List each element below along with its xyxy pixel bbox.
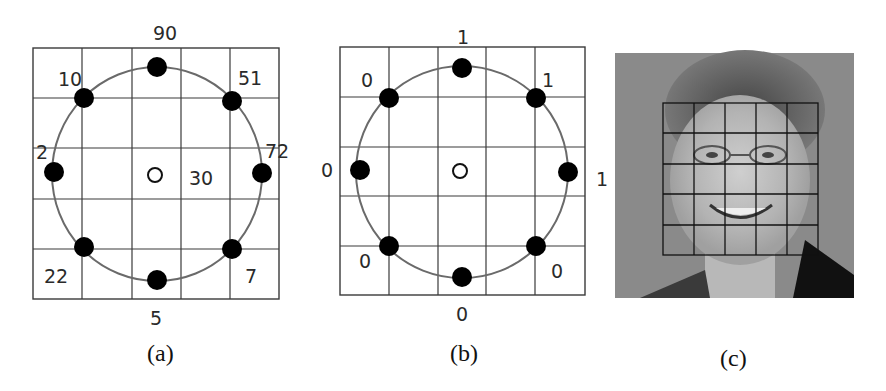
panel-b-center-pixel bbox=[453, 164, 467, 178]
panel-a-neighbor-bottom-left bbox=[74, 237, 94, 257]
bit-left: 0 bbox=[321, 159, 333, 181]
panel-b-neighbor-bottom bbox=[452, 267, 472, 287]
panel-a: 90 51 72 7 5 22 2 10 30 (a) bbox=[33, 22, 289, 366]
caption-b: (b) bbox=[450, 340, 478, 366]
panel-a-center-pixel bbox=[148, 168, 162, 182]
panel-a-neighbor-right bbox=[252, 163, 272, 183]
panel-a-neighbor-top-right bbox=[222, 91, 242, 111]
value-left: 2 bbox=[36, 141, 48, 163]
value-center: 30 bbox=[189, 167, 213, 189]
value-bottom-right: 7 bbox=[245, 265, 257, 287]
panel-b-neighbor-left bbox=[350, 160, 370, 180]
bit-bottom-right: 0 bbox=[551, 260, 563, 282]
panel-a-neighbor-left bbox=[44, 162, 64, 182]
panel-b-neighbor-top-left bbox=[379, 88, 399, 108]
value-top-right: 51 bbox=[238, 67, 262, 89]
panel-b: 1 1 1 0 0 0 0 0 (b) bbox=[321, 26, 608, 366]
caption-a: (a) bbox=[147, 340, 174, 366]
panel-a-neighbor-top bbox=[147, 57, 167, 77]
panel-c: (c) bbox=[615, 50, 854, 371]
panel-a-neighbor-bottom bbox=[147, 270, 167, 290]
bit-top-right: 1 bbox=[542, 69, 554, 91]
panel-b-neighbor-bottom-left bbox=[379, 236, 399, 256]
panel-b-neighbor-top-right bbox=[526, 88, 546, 108]
bit-bottom-left: 0 bbox=[359, 250, 371, 272]
value-top: 90 bbox=[153, 22, 177, 44]
value-right: 72 bbox=[265, 140, 289, 162]
value-top-left: 10 bbox=[58, 68, 82, 90]
panel-b-neighbor-bottom-right bbox=[526, 236, 546, 256]
bit-right: 1 bbox=[596, 168, 608, 190]
panel-b-neighbor-right bbox=[558, 162, 578, 182]
panel-a-neighbor-top-left bbox=[74, 88, 94, 108]
panel-b-neighbor-top bbox=[452, 58, 472, 78]
bit-bottom: 0 bbox=[456, 303, 468, 325]
lbp-figure: 90 51 72 7 5 22 2 10 30 (a) bbox=[0, 0, 886, 391]
caption-c: (c) bbox=[720, 345, 747, 371]
value-bottom: 5 bbox=[150, 307, 162, 329]
value-bottom-left: 22 bbox=[44, 265, 68, 287]
bit-top-left: 0 bbox=[361, 69, 373, 91]
bit-top: 1 bbox=[457, 26, 469, 48]
panel-a-neighbor-bottom-right bbox=[222, 239, 242, 259]
